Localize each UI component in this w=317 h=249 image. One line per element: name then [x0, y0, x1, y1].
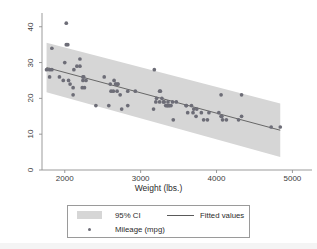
data-point	[152, 107, 156, 111]
data-point	[102, 75, 106, 79]
data-point	[107, 104, 111, 108]
data-point	[171, 118, 175, 122]
legend-label-mileage: Mileage (mpg)	[115, 223, 165, 236]
x-axis-title: Weight (lbs.)	[0, 183, 317, 193]
data-point	[174, 100, 178, 104]
data-point	[50, 46, 54, 50]
data-point	[166, 100, 170, 104]
data-point	[160, 97, 164, 101]
data-point	[111, 89, 115, 93]
data-point	[64, 21, 68, 25]
data-point	[61, 79, 65, 83]
data-point	[221, 118, 225, 122]
data-point	[133, 89, 137, 93]
data-point	[206, 118, 210, 122]
data-point	[278, 125, 282, 129]
data-point	[240, 114, 244, 118]
data-point	[58, 75, 62, 79]
data-point	[207, 111, 211, 115]
data-point	[217, 111, 221, 115]
x-axis-tick-label: 5000	[275, 175, 309, 183]
data-point	[112, 79, 116, 83]
data-point	[194, 114, 198, 118]
chart-screenshot: 010203040 2000300040005000 Weight (lbs.)…	[0, 0, 317, 249]
data-point	[169, 104, 173, 108]
data-point	[186, 111, 190, 115]
data-point	[71, 86, 75, 90]
plot-svg	[0, 0, 317, 200]
legend: 95% CI Fitted values Mileage (mpg)	[67, 205, 250, 238]
data-point	[191, 111, 195, 115]
bottom-edge-shade	[0, 243, 317, 249]
data-point	[94, 104, 98, 108]
x-axis-tick-label: 4000	[200, 175, 234, 183]
data-point	[48, 75, 52, 79]
data-point	[240, 93, 244, 97]
data-point	[195, 107, 199, 111]
data-point	[72, 68, 76, 72]
data-point	[190, 104, 194, 108]
x-axis-tick-label: 2000	[48, 175, 82, 183]
data-point	[120, 107, 124, 111]
data-point	[162, 100, 166, 104]
data-point	[82, 75, 86, 79]
data-point	[68, 82, 72, 86]
data-point	[269, 125, 273, 129]
y-axis-tick-label: 20	[27, 90, 35, 106]
data-point	[171, 100, 175, 104]
data-point	[108, 82, 112, 86]
x-axis-tick-label: 3000	[124, 175, 158, 183]
data-point	[202, 118, 206, 122]
data-point	[184, 104, 188, 108]
data-point	[84, 79, 88, 83]
data-point	[78, 57, 82, 61]
data-point	[159, 89, 163, 93]
y-axis-tick-label: 0	[27, 162, 35, 178]
legend-item-mileage: Mileage (mpg)	[77, 223, 177, 236]
data-point	[158, 100, 162, 104]
data-point	[219, 93, 223, 97]
data-point	[225, 118, 229, 122]
data-point	[116, 82, 120, 86]
data-point	[83, 86, 87, 90]
data-point	[155, 97, 159, 101]
data-point	[67, 79, 71, 83]
data-point	[118, 93, 122, 97]
data-point	[237, 118, 241, 122]
y-axis-tick-label: 10	[27, 126, 35, 142]
data-point	[152, 68, 156, 72]
data-point	[50, 68, 54, 72]
data-point	[66, 43, 70, 47]
data-point	[200, 111, 204, 115]
legend-item-ci: 95% CI	[77, 209, 157, 222]
data-point	[71, 93, 75, 97]
data-point	[220, 114, 224, 118]
legend-label-ci: 95% CI	[115, 209, 141, 222]
data-point	[78, 64, 82, 68]
data-point	[126, 89, 130, 93]
data-point	[63, 61, 67, 65]
legend-label-fitted: Fitted values	[200, 209, 244, 222]
data-point	[154, 100, 158, 104]
legend-item-fitted: Fitted values	[167, 209, 247, 222]
confidence-interval-band	[47, 43, 281, 157]
y-axis-tick-label: 30	[27, 55, 35, 71]
y-axis-tick-label: 40	[27, 19, 35, 35]
data-point	[126, 104, 130, 108]
plot-area: 010203040 2000300040005000 Weight (lbs.)	[0, 0, 317, 200]
data-point	[115, 89, 119, 93]
